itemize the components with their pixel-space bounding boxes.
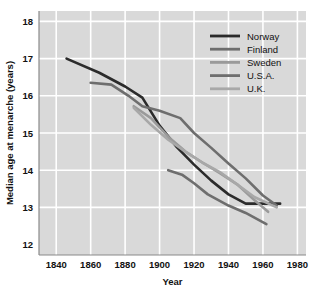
- legend-label-norway: Norway: [247, 31, 279, 42]
- legend-label-finland: Finland: [247, 44, 278, 55]
- line-chart: 1213141516171818401860188019001920194019…: [0, 0, 327, 293]
- chart-container: 1213141516171818401860188019001920194019…: [0, 0, 327, 293]
- y-tick-label: 13: [22, 202, 33, 213]
- x-tick-label: 1980: [287, 259, 308, 270]
- y-tick-label: 12: [22, 239, 33, 250]
- y-tick-label: 17: [22, 53, 33, 64]
- x-tick-label: 1920: [183, 259, 204, 270]
- x-tick-labels: 18401860188019001920194019601980: [46, 259, 308, 270]
- x-axis-title: Year: [162, 276, 182, 287]
- x-tick-label: 1880: [115, 259, 136, 270]
- x-tick-label: 1900: [149, 259, 170, 270]
- y-tick-labels: 12131415161718: [22, 16, 33, 250]
- x-tick-label: 1860: [80, 259, 101, 270]
- y-tick-label: 15: [22, 128, 33, 139]
- legend-label-uk: U.K.: [247, 83, 265, 94]
- x-tick-label: 1960: [252, 259, 273, 270]
- y-tick-label: 18: [22, 16, 33, 27]
- legend-label-usa: U.S.A.: [247, 70, 274, 81]
- x-tick-label: 1840: [46, 259, 67, 270]
- y-tick-label: 14: [22, 165, 33, 176]
- y-tick-label: 16: [22, 90, 33, 101]
- y-axis-title: Median age at menarche (years): [4, 61, 15, 205]
- legend-label-sweden: Sweden: [247, 57, 281, 68]
- x-tick-label: 1940: [218, 259, 239, 270]
